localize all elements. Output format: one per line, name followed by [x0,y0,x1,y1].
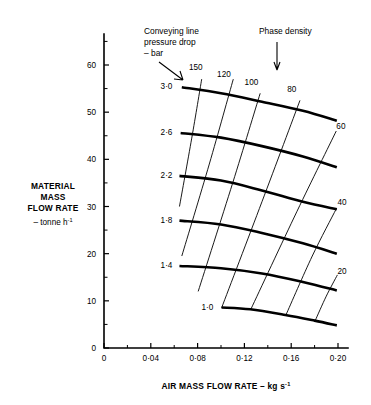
phase-density-20 [315,275,337,321]
y-axis-tick-label: 10 [87,297,97,306]
phase-density-100 [198,93,260,291]
chart-plot-area: 00·040·080·120·160·2001020304050603·02·6… [0,0,371,405]
phase-density-40 [286,209,336,315]
phase-density-80 [222,100,300,308]
curve-label-150: 150 [189,63,203,72]
y-axis-title-line3: FLOW RATE [28,203,79,213]
pressure-drop-1.4 [179,266,336,291]
curve-label-1-4: 1·4 [161,261,173,270]
curve-label-60: 60 [336,122,346,131]
pressure-drop-annotation-line2: pressure drop [144,37,196,47]
x-axis-tick-label: 0 [102,354,107,363]
axis-lines [104,34,348,348]
pressure-drop-3.0 [182,87,337,120]
curve-label-80: 80 [287,85,297,94]
y-axis-title-line1: MATERIAL [31,181,75,191]
x-axis-tick-label: 0·20 [330,354,347,363]
curve-label-100: 100 [245,78,259,87]
curve-label-20: 20 [338,267,348,276]
y-axis-unit: – tonne h-1 [33,217,72,227]
x-axis-title: AIR MASS FLOW RATE – kg s-1 [162,381,291,391]
pressure-drop-2.6 [181,133,337,167]
y-axis-tick-label: 0 [91,344,96,353]
curve-label-2-2: 2·2 [161,171,173,180]
x-axis-tick-label: 0·08 [189,354,206,363]
pressure-drop-annotation-line3: – bar [144,48,163,58]
curve-label-1-0: 1·0 [202,303,214,312]
x-axis-tick-label: 0·12 [236,354,253,363]
phase-density-arrow-icon [274,42,280,70]
phase-density-120 [182,79,233,256]
curve-label-2-6: 2·6 [161,128,173,137]
pressure-drop-annotation-line1: Conveying line [144,26,199,36]
curve-label-1-8: 1·8 [161,216,173,225]
curve-label-120: 120 [217,70,231,79]
curve-label-3-0: 3·0 [161,82,173,91]
y-axis-tick-label: 50 [87,108,97,117]
pneumatic-conveying-chart: 00·040·080·120·160·2001020304050603·02·6… [0,0,371,405]
pressure-drop-2.2 [179,176,336,209]
phase-density-60 [251,131,336,309]
phase-density-150 [179,79,201,206]
y-axis-tick-label: 30 [87,203,97,212]
pressure-drop-1.8 [179,221,336,254]
x-axis-tick-label: 0·16 [283,354,300,363]
y-axis-title-line2: MASS [41,192,66,202]
phase-density-annotation-line1: Phase density [259,26,312,36]
y-axis-tick-label: 40 [87,155,97,164]
x-axis-tick-label: 0·04 [143,354,160,363]
y-axis-tick-label: 60 [87,61,97,70]
y-axis-tick-label: 20 [87,250,97,259]
curve-label-40: 40 [338,198,348,207]
pressure-drop-arrow-icon [159,62,183,80]
